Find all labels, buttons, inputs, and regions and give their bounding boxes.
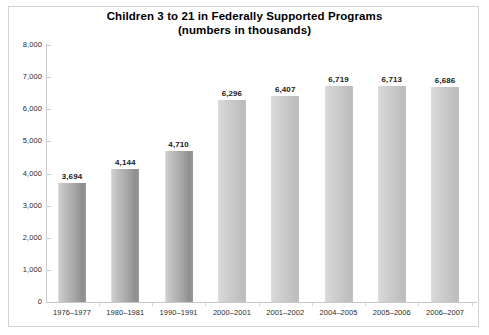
bar[interactable] bbox=[218, 100, 246, 302]
y-axis-tick-label: 4,000 bbox=[8, 169, 42, 178]
y-axis-tick-label: 2,000 bbox=[8, 233, 42, 242]
bar-value-label: 4,710 bbox=[151, 140, 207, 149]
y-axis-tick-label: 1,000 bbox=[8, 265, 42, 274]
x-axis-tick-mark bbox=[472, 303, 473, 306]
y-axis-tick-mark bbox=[47, 109, 51, 110]
y-axis-tick-mark bbox=[47, 77, 51, 78]
bar-value-label: 6,296 bbox=[204, 89, 260, 98]
y-axis-tick-mark bbox=[47, 45, 51, 46]
y-axis-tick-label: 7,000 bbox=[8, 72, 42, 81]
x-axis-tick-mark bbox=[99, 303, 100, 306]
bar-value-label: 6,719 bbox=[311, 75, 367, 84]
x-axis-tick-mark bbox=[312, 303, 313, 306]
bar[interactable] bbox=[325, 86, 353, 302]
y-axis-tick-label: 0 bbox=[8, 297, 42, 306]
chart-title: Children 3 to 21 in Federally Supported … bbox=[0, 9, 489, 37]
x-axis-tick-mark bbox=[152, 303, 153, 306]
chart-title-line-1: Children 3 to 21 in Federally Supported … bbox=[0, 9, 489, 23]
x-axis-tick-mark bbox=[365, 303, 366, 306]
bar-value-label: 6,407 bbox=[257, 85, 313, 94]
bar-chart-figure: Children 3 to 21 in Federally Supported … bbox=[0, 0, 489, 335]
bar[interactable] bbox=[111, 169, 139, 302]
y-axis-tick-mark bbox=[47, 270, 51, 271]
y-axis-tick-label: 5,000 bbox=[8, 136, 42, 145]
x-axis-tick-mark bbox=[418, 303, 419, 306]
y-axis-tick-label: 8,000 bbox=[8, 40, 42, 49]
x-axis-tick-mark bbox=[205, 303, 206, 306]
y-axis-tick-mark bbox=[47, 238, 51, 239]
bar-value-label: 6,713 bbox=[364, 75, 420, 84]
y-axis-tick-label: 3,000 bbox=[8, 201, 42, 210]
chart-title-line-2: (numbers in thousands) bbox=[0, 23, 489, 37]
bar[interactable] bbox=[58, 183, 86, 302]
bar[interactable] bbox=[271, 96, 299, 302]
y-axis-tick-mark bbox=[47, 302, 51, 303]
x-axis-tick-mark bbox=[259, 303, 260, 306]
bar[interactable] bbox=[431, 87, 459, 302]
bar[interactable] bbox=[165, 151, 193, 302]
y-axis-tick-label: 6,000 bbox=[8, 104, 42, 113]
bar-value-label: 3,694 bbox=[44, 172, 100, 181]
x-axis-line bbox=[46, 302, 477, 303]
y-axis-tick-mark bbox=[47, 206, 51, 207]
x-axis-tick-label: 2006–2007 bbox=[412, 308, 478, 317]
bar-value-label: 6,686 bbox=[417, 76, 473, 85]
y-axis-tick-mark bbox=[47, 141, 51, 142]
bar[interactable] bbox=[378, 86, 406, 302]
bar-value-label: 4,144 bbox=[97, 158, 153, 167]
